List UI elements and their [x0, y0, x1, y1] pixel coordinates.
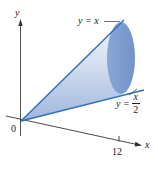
label-lhs: y =: [116, 98, 130, 109]
x-axis-arrow-icon: [135, 142, 142, 147]
label-y-equals-x-over-2: y = x 2: [116, 92, 140, 115]
x-axis: [6, 116, 142, 147]
numerator: x: [133, 92, 137, 102]
origin-label: 0: [11, 124, 16, 134]
denominator: 2: [133, 105, 138, 115]
y-axis-arrow-icon: [18, 19, 22, 26]
fraction: x 2: [132, 92, 140, 115]
x-axis-label: x: [145, 140, 149, 150]
y-axis-label: y: [15, 8, 19, 18]
x-tick-label-12: 12: [112, 147, 122, 157]
label-y-equals-x: y = x: [78, 16, 99, 26]
